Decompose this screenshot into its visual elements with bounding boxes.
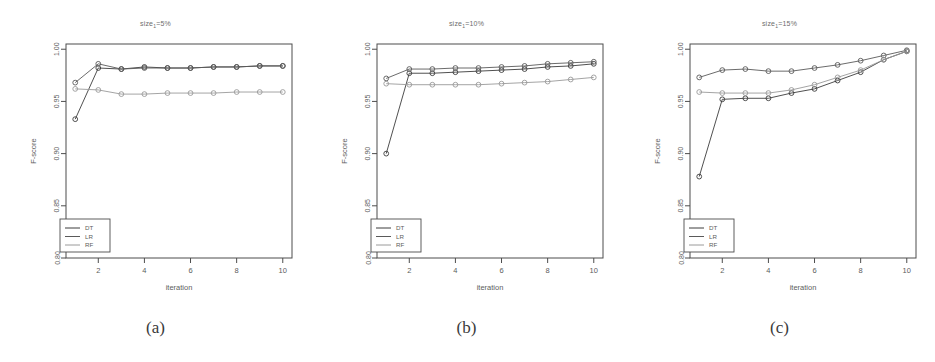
figure-three-panel-fscore: size1=5% 0.800.850.900.951.00246810itera… bbox=[0, 0, 935, 362]
y-axis-label: F-score bbox=[29, 138, 38, 163]
x-axis-tick-label: 4 bbox=[453, 266, 457, 275]
series-line bbox=[75, 89, 283, 94]
x-axis-tick-label: 8 bbox=[235, 266, 239, 275]
legend-label-lr: LR bbox=[396, 233, 404, 240]
y-axis-label: F-score bbox=[340, 138, 349, 163]
series-dt bbox=[697, 49, 909, 179]
data-point-marker bbox=[697, 174, 702, 179]
series-line bbox=[75, 64, 283, 83]
subfigure-caption-c: (c) bbox=[624, 318, 935, 338]
data-point-marker bbox=[384, 151, 389, 156]
series-lr bbox=[384, 59, 596, 81]
legend-label-dt: DT bbox=[85, 224, 93, 231]
chart-legend: DTLRRF bbox=[371, 219, 421, 252]
legend-label-lr: LR bbox=[709, 233, 717, 240]
legend-label-dt: DT bbox=[709, 224, 717, 231]
y-axis-tick-label: 1.00 bbox=[678, 42, 685, 56]
x-axis-tick-label: 6 bbox=[188, 266, 192, 275]
series-rf bbox=[73, 86, 285, 96]
series-line bbox=[386, 62, 594, 79]
legend-label-dt: DT bbox=[396, 224, 404, 231]
x-axis-tick-label: 6 bbox=[499, 266, 503, 275]
series-rf bbox=[697, 49, 909, 96]
x-axis-tick-label: 10 bbox=[903, 266, 911, 275]
x-axis-tick-label: 6 bbox=[812, 266, 816, 275]
y-axis-tick-label: 0.90 bbox=[365, 147, 372, 161]
y-axis-tick-label: 0.85 bbox=[365, 199, 372, 213]
x-axis-tick-label: 2 bbox=[407, 266, 411, 275]
x-axis-label: iteration bbox=[166, 283, 193, 292]
series-dt bbox=[73, 64, 285, 122]
chart-panel-c: size1=15% 0.800.850.900.951.00246810iter… bbox=[624, 0, 935, 362]
subfigure-caption-a: (a) bbox=[0, 318, 311, 338]
y-axis-tick-label: 0.85 bbox=[54, 199, 61, 213]
y-axis-tick-label: 1.00 bbox=[365, 42, 372, 56]
x-axis-label: iteration bbox=[790, 283, 817, 292]
series-line bbox=[386, 77, 594, 84]
series-rf bbox=[384, 75, 596, 87]
subfigure-caption-b: (b) bbox=[311, 318, 622, 338]
x-axis-tick-label: 4 bbox=[142, 266, 146, 275]
x-axis-tick-label: 4 bbox=[766, 266, 770, 275]
series-line bbox=[75, 66, 283, 119]
legend-label-rf: RF bbox=[396, 241, 404, 248]
y-axis-tick-label: 0.95 bbox=[54, 94, 61, 108]
series-lr bbox=[697, 48, 909, 80]
x-axis-tick-label: 8 bbox=[859, 266, 863, 275]
chart-legend: DTLRRF bbox=[684, 219, 734, 252]
y-axis-tick-label: 0.90 bbox=[678, 147, 685, 161]
y-axis-label: F-score bbox=[653, 138, 662, 163]
y-axis-tick-label: 0.85 bbox=[678, 199, 685, 213]
x-axis-tick-label: 10 bbox=[279, 266, 287, 275]
chart-svg-a: 0.800.850.900.951.00246810iterationF-sco… bbox=[0, 0, 311, 300]
x-axis-tick-label: 2 bbox=[720, 266, 724, 275]
chart-legend: DTLRRF bbox=[60, 219, 110, 252]
series-dt bbox=[384, 61, 596, 156]
x-axis-tick-label: 2 bbox=[96, 266, 100, 275]
plot-area-c: 0.800.850.900.951.00246810iterationF-sco… bbox=[624, 0, 935, 300]
x-axis-tick-label: 10 bbox=[590, 266, 598, 275]
series-line bbox=[386, 64, 594, 154]
plot-area-b: 0.800.850.900.951.00246810iterationF-sco… bbox=[311, 0, 622, 300]
legend-label-lr: LR bbox=[85, 233, 93, 240]
y-axis-tick-label: 1.00 bbox=[54, 42, 61, 56]
y-axis-tick-label: 0.80 bbox=[678, 251, 685, 265]
y-axis-tick-label: 0.90 bbox=[54, 147, 61, 161]
y-axis-tick-label: 0.95 bbox=[678, 94, 685, 108]
chart-svg-b: 0.800.850.900.951.00246810iterationF-sco… bbox=[311, 0, 622, 300]
chart-svg-c: 0.800.850.900.951.00246810iterationF-sco… bbox=[624, 0, 935, 300]
chart-panel-b: size1=10% 0.800.850.900.951.00246810iter… bbox=[311, 0, 622, 362]
y-axis-tick-label: 0.80 bbox=[54, 251, 61, 265]
chart-panel-a: size1=5% 0.800.850.900.951.00246810itera… bbox=[0, 0, 311, 362]
y-axis-tick-label: 0.80 bbox=[365, 251, 372, 265]
x-axis-tick-label: 8 bbox=[546, 266, 550, 275]
y-axis-tick-label: 0.95 bbox=[365, 94, 372, 108]
series-lr bbox=[73, 61, 285, 85]
plot-area-a: 0.800.850.900.951.00246810iterationF-sco… bbox=[0, 0, 311, 300]
legend-label-rf: RF bbox=[85, 241, 93, 248]
x-axis-label: iteration bbox=[477, 283, 504, 292]
legend-label-rf: RF bbox=[709, 241, 717, 248]
